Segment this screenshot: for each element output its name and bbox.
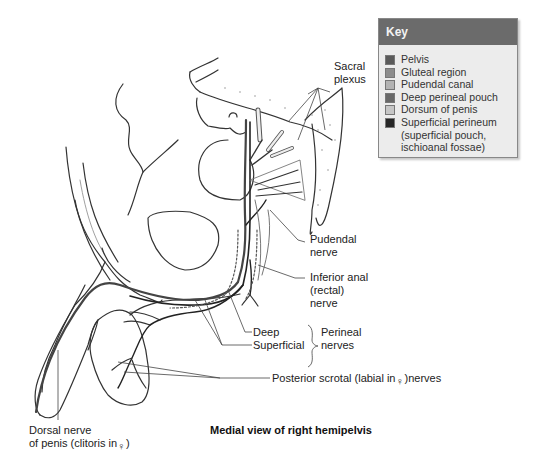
sacral-plexus-label: Sacral plexus [334,60,366,86]
dorsal-nerve-line1: Dorsal nerve [29,424,130,437]
sacral-plexus-line2: plexus [334,73,366,86]
key-item-label: Gluteal region [401,66,466,79]
female-symbol-glyph: ♀ [117,441,125,452]
key-legend: Key Pelvis Gluteal region Pudendal canal… [378,18,518,158]
pudendal-nerve-label: Pudendal nerve [310,233,357,259]
pudendal-nerve-line1: Pudendal [310,233,357,246]
key-item-label: Pelvis [401,53,429,66]
key-item-label: Pudendal canal [401,78,473,91]
superficial-label: Superficial [253,339,304,352]
key-item-label: Superficial perineum [401,116,497,129]
key-list: Pelvis Gluteal region Pudendal canal Dee… [379,45,517,154]
key-item-gluteal-region: Gluteal region [385,66,517,79]
perineal-nerves-line1: Perineal [321,326,361,339]
swatch-icon [385,93,395,103]
key-item-pelvis: Pelvis [385,53,517,66]
deep-label: Deep [253,326,279,339]
posterior-scrotal-nerves-label: Posterior scrotal (labial in♀)nerves [272,372,441,385]
swatch-icon [385,118,395,128]
dorsal-nerve-suffix: ) [126,437,130,449]
perineal-nerves-line2: nerves [321,339,361,352]
swatch-icon [385,55,395,65]
dorsal-nerve-text: of penis (clitoris in [29,437,117,449]
inferior-anal-line3: nerve [310,297,368,310]
posterior-scrotal-text: Posterior scrotal (labial in [272,372,396,384]
pudendal-nerve-line2: nerve [310,246,357,259]
swatch-icon [385,105,395,115]
inferior-anal-line1: Inferior anal [310,271,368,284]
key-item-dorsum-of-penis: Dorsum of penis [385,103,517,116]
key-item-superficial-perineum: Superficial perineum (superficial pouch,… [385,116,517,154]
perineal-nerves-label: Perineal nerves [321,326,361,352]
posterior-scrotal-suffix: )nerves [405,372,442,384]
swatch-icon [385,80,395,90]
key-item-label: Dorsum of penis [401,103,477,116]
key-item-deep-perineal-pouch: Deep perineal pouch [385,91,517,104]
key-item-text-block: Superficial perineum (superficial pouch,… [401,116,497,154]
inferior-anal-line2: (rectal) [310,284,368,297]
figure-caption: Medial view of right hemipelvis [210,424,372,436]
sacral-plexus-line1: Sacral [334,60,366,73]
female-symbol-glyph: ♀ [396,376,404,387]
key-item-sublabel: ischioanal fossae) [401,141,497,154]
swatch-icon [385,68,395,78]
dorsal-nerve-label: Dorsal nerve of penis (clitoris in♀) [29,424,130,450]
key-item-label: Deep perineal pouch [401,91,498,104]
key-title: Key [379,19,517,45]
inferior-anal-nerve-label: Inferior anal (rectal) nerve [310,271,368,310]
dorsal-nerve-line2: of penis (clitoris in♀) [29,437,130,450]
key-item-sublabel: (superficial pouch, [401,129,497,142]
key-item-pudendal-canal: Pudendal canal [385,78,517,91]
